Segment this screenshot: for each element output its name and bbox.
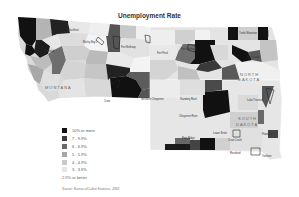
state-label-north-dakota-2: DAKOTA	[238, 77, 260, 82]
reservation-label: Fort Belknap	[121, 45, 136, 49]
reservation-label: Cheyenne River	[179, 114, 198, 118]
reservation-label: Turtle Mountain	[239, 31, 257, 35]
state-label-south-dakota-2: DAKOTA	[236, 122, 258, 127]
legend-swatch	[62, 128, 67, 133]
legend-swatch	[62, 167, 67, 172]
reservation-label: Crow	[104, 99, 110, 103]
reservation-label: Flathead	[44, 49, 55, 53]
legend-item: 5 - 5.9%	[62, 150, 95, 158]
reservation-label: Flandreau	[262, 132, 274, 136]
reservation-label: Rosebud	[230, 151, 241, 155]
reservation-label: Blackfeet	[68, 28, 79, 32]
source-note: Source: Bureau of Labor Statistics, 2002	[62, 187, 119, 191]
legend-item: 7 - 9.9%	[62, 135, 95, 143]
reservation-label: Fort Berthold	[181, 47, 197, 51]
legend-label: 7 - 9.9%	[72, 136, 87, 141]
legend-swatch	[62, 136, 67, 141]
reservation-label: Rocky Boy's	[83, 40, 98, 44]
legend-label: 4 - 4.9%	[72, 160, 87, 165]
legend-item: 6 - 6.9%	[62, 143, 95, 151]
montana-state	[18, 17, 150, 102]
reservation-label: Yankton	[262, 154, 272, 158]
legend-item: 4 - 4.9%	[62, 158, 95, 166]
map-legend: 10% or more 7 - 9.9% 6 - 6.9% 5 - 5.9% 4…	[62, 127, 95, 182]
state-label-montana: MONTANA	[45, 85, 72, 90]
south-dakota-state	[150, 80, 282, 160]
reservation-label: Crow Creek	[228, 138, 242, 142]
reservation-label: Standing Rock	[180, 97, 198, 101]
reservation-label: Northern Cheyenne	[141, 97, 164, 101]
legend-swatch	[62, 144, 67, 149]
legend-label: 10% or more	[72, 128, 95, 133]
legend-label: 6 - 6.9%	[72, 144, 87, 149]
reservation-label: Lake Traverse	[247, 98, 264, 102]
legend-item-last: 2.9% or better	[62, 174, 95, 182]
reservation-label: Fort Peck	[157, 51, 169, 55]
unemployment-choropleth-map: MONTANA NORTH DAKOTA SOUTH DAKOTA Blackf…	[0, 0, 299, 197]
reservation-label: Pine Ridge	[182, 136, 195, 140]
legend-swatch	[62, 160, 67, 165]
legend-swatch	[62, 152, 67, 157]
reservation-label: Lower Brule	[213, 131, 227, 135]
legend-label: 5 - 5.9%	[72, 152, 87, 157]
reservation-label: Spirit Lake	[247, 55, 260, 59]
legend-label: 3 - 3.9%	[72, 167, 87, 172]
legend-item: 3 - 3.9%	[62, 166, 95, 174]
legend-label: 2.9% or better	[62, 175, 87, 180]
legend-item: 10% or more	[62, 127, 95, 135]
north-dakota-state	[150, 27, 280, 80]
state-label-south-dakota-1: SOUTH	[238, 116, 257, 121]
